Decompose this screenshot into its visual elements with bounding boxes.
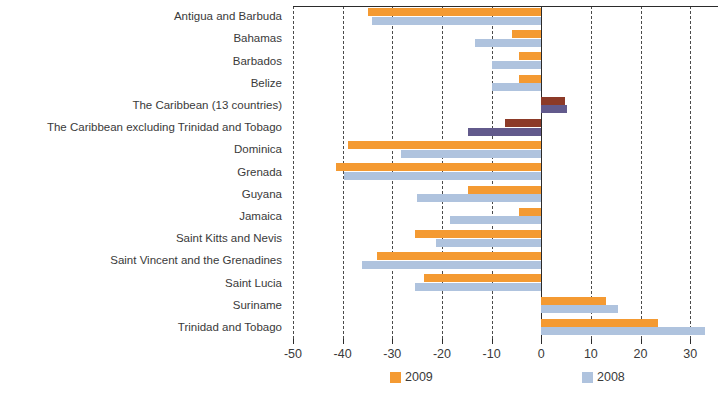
x-axis-tick [641,339,642,344]
bar-2009 [415,230,541,238]
bar-2009 [541,297,606,305]
legend-item-2009[interactable]: 2009 [390,370,433,384]
bar-2008 [415,283,541,291]
bar-2008 [541,305,617,313]
bar-2009 [519,52,541,60]
bar-2008 [362,261,542,269]
legend-label-2008: 2008 [597,370,625,384]
bar-2009 [368,8,541,16]
bar-2009 [512,30,541,38]
bar-2008 [492,61,542,69]
bar-2008 [468,128,541,136]
category-label: Trinidad and Tobago [178,321,282,333]
bar-2008 [450,216,541,224]
x-axis-tick-label: 0 [538,347,545,361]
category-label: Bahamas [233,32,282,44]
bar-2008 [475,39,541,47]
category-label: Saint Vincent and the Grenadines [110,254,282,266]
x-axis-tick-label: 20 [634,347,648,361]
category-label: Grenada [237,166,282,178]
chart-legend: 2009 2008 [0,370,718,392]
category-label: Saint Kitts and Nevis [176,232,282,244]
category-label: Barbados [233,55,282,67]
x-axis-tick-label: 30 [683,347,697,361]
gridline [293,6,294,339]
plot-area [293,6,710,339]
gridline [690,6,691,339]
x-axis-tick [492,339,493,344]
category-label: Jamaica [239,210,282,222]
x-axis-line [293,6,718,7]
x-axis-tick-label: -50 [284,347,302,361]
gridline [591,6,592,339]
legend-swatch-2009-icon [390,372,401,383]
category-label: Antigua and Barbuda [174,10,282,22]
category-label: The Caribbean excluding Trinidad and Tob… [47,121,282,133]
gridline [641,6,642,339]
bar-2008 [436,239,541,247]
legend-label-2009: 2009 [405,370,433,384]
zero-axis-line [541,6,542,341]
x-axis-tick [690,339,691,344]
bar-2008 [492,83,542,91]
category-label: Belize [251,77,282,89]
bar-2008 [417,194,541,202]
category-label: Saint Lucia [225,277,282,289]
bar-2009 [348,141,542,149]
bar-2009 [336,163,541,171]
x-axis-tick [343,339,344,344]
x-axis-tick [392,339,393,344]
bar-2008 [372,17,541,25]
category-label: Dominica [234,143,282,155]
x-axis-tick [293,339,294,344]
bar-2009 [519,208,541,216]
bar-2009 [541,97,565,105]
x-axis-tick-label: -40 [334,347,352,361]
bar-2008 [541,105,567,113]
category-label: The Caribbean (13 countries) [132,99,282,111]
bar-2009 [468,186,541,194]
category-axis-labels: Antigua and BarbudaBahamasBarbadosBelize… [0,6,288,339]
legend-swatch-2008-icon [582,372,593,383]
bar-chart: Antigua and BarbudaBahamasBarbadosBelize… [0,0,718,396]
x-axis-tick [541,339,542,344]
x-axis-tick-label: -30 [383,347,401,361]
bar-2008 [344,172,542,180]
category-label: Suriname [233,299,282,311]
bar-2009 [541,319,658,327]
x-axis-tick [591,339,592,344]
x-axis-tick-label: -10 [483,347,501,361]
bar-2009 [505,119,541,127]
x-axis-tick [442,339,443,344]
legend-item-2008[interactable]: 2008 [582,370,625,384]
bar-2009 [424,274,542,282]
bar-2009 [377,252,541,260]
category-label: Guyana [242,188,282,200]
x-axis-tick-label: 10 [584,347,598,361]
x-axis-tick-label: -20 [433,347,451,361]
bar-2009 [519,75,541,83]
bar-2008 [401,150,541,158]
bar-2008 [541,327,705,335]
